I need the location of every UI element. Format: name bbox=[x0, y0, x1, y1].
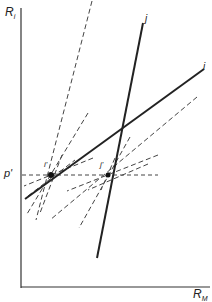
line-j-label: j bbox=[145, 14, 147, 24]
point-left bbox=[48, 172, 54, 178]
point-right bbox=[106, 173, 111, 178]
y-axis-label: Ri bbox=[5, 6, 15, 20]
left-point-dashed-fan bbox=[24, 1, 93, 220]
point-left-label: i' bbox=[44, 161, 47, 169]
diagram-canvas bbox=[0, 0, 212, 302]
line-i bbox=[25, 69, 204, 199]
point-right-label: j' bbox=[100, 161, 103, 169]
price-label: p' bbox=[4, 168, 12, 179]
line-i-label: i bbox=[203, 62, 205, 72]
x-axis-label: RM bbox=[193, 288, 208, 302]
right-point-dashed-fan bbox=[50, 97, 197, 228]
